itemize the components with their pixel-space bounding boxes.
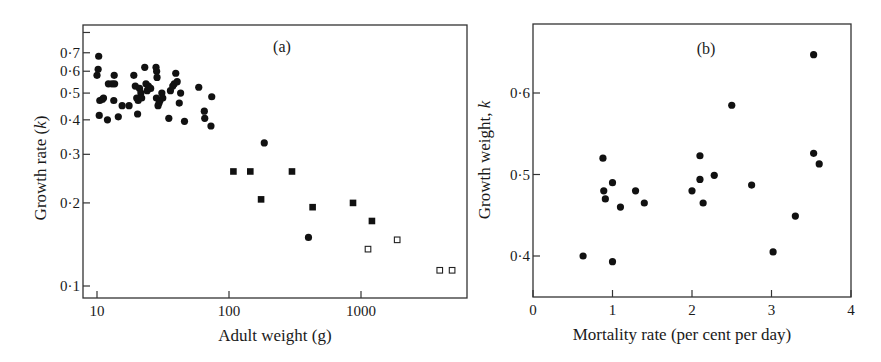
x-tick-label: 4 bbox=[847, 302, 855, 318]
data-point-circle bbox=[93, 72, 100, 79]
x-tick-label: 0 bbox=[529, 302, 537, 318]
data-point-open-square bbox=[449, 267, 455, 273]
data-point-circle bbox=[100, 94, 107, 101]
x-axis-title-b: Mortality rate (per cent per day) bbox=[573, 325, 792, 344]
y-tick-label: 0·1 bbox=[60, 278, 80, 294]
y-axis-title-b-text: Growth weight, bbox=[475, 108, 494, 219]
data-point-circle bbox=[141, 64, 148, 71]
data-point-circle bbox=[711, 172, 718, 179]
data-point-circle bbox=[201, 115, 208, 122]
data-point-circle bbox=[153, 74, 160, 81]
x-tick-label: 100 bbox=[218, 303, 241, 319]
data-point-circle bbox=[153, 68, 160, 75]
data-point-circle bbox=[111, 80, 118, 87]
y-tick-label: 0·4 bbox=[510, 248, 530, 264]
y-tick-label: 0·2 bbox=[60, 195, 80, 211]
data-point-circle bbox=[201, 108, 208, 115]
data-point-circle bbox=[696, 176, 703, 183]
data-point-circle bbox=[696, 152, 703, 159]
data-point-circle bbox=[632, 187, 639, 194]
data-point-circle bbox=[599, 155, 606, 162]
x-tick-label: 1000 bbox=[346, 303, 376, 319]
data-point-circle bbox=[177, 89, 184, 96]
data-point-square bbox=[289, 168, 296, 175]
data-point-circle bbox=[125, 102, 132, 109]
data-point-circle bbox=[609, 258, 616, 265]
x-tick-label: 1 bbox=[609, 302, 617, 318]
chart-panel-a: 101001000 0·10·20·30·40·50·60·7 (a) Adul… bbox=[31, 25, 467, 345]
data-point-circle bbox=[600, 187, 607, 194]
plot-frame-a bbox=[83, 25, 467, 298]
y-tick-label: 0·3 bbox=[60, 146, 80, 162]
data-point-circle bbox=[165, 115, 172, 122]
data-point-circle bbox=[176, 99, 183, 106]
y-tick-label: 0·6 bbox=[60, 63, 80, 79]
y-tick-label: 0·6 bbox=[510, 85, 530, 101]
data-point-circle bbox=[172, 70, 179, 77]
data-point-square bbox=[247, 168, 254, 175]
y-tick-label: 0·4 bbox=[60, 112, 80, 128]
data-point-circle bbox=[769, 248, 776, 255]
figure: 101001000 0·10·20·30·40·50·60·7 (a) Adul… bbox=[0, 0, 881, 362]
y-tick-label: 0·7 bbox=[60, 45, 80, 61]
data-point-circle bbox=[602, 195, 609, 202]
data-points-b bbox=[579, 51, 822, 265]
x-tick-label: 10 bbox=[90, 303, 105, 319]
y-axis-title-a: Growth rate (k) bbox=[31, 116, 50, 221]
data-point-circle bbox=[130, 72, 137, 79]
data-point-square bbox=[350, 200, 357, 207]
y-axis-b: 0·40·50·6 bbox=[510, 85, 540, 264]
data-point-circle bbox=[181, 118, 188, 125]
data-point-circle bbox=[579, 252, 586, 259]
data-point-circle bbox=[207, 122, 214, 129]
data-point-circle bbox=[261, 139, 268, 146]
y-axis-title-b: Growth weight, k bbox=[475, 100, 494, 219]
data-point-circle bbox=[810, 51, 817, 58]
x-tick-label: 3 bbox=[768, 302, 776, 318]
data-point-circle bbox=[609, 179, 616, 186]
data-point-circle bbox=[134, 110, 141, 117]
data-point-circle bbox=[641, 199, 648, 206]
data-point-circle bbox=[119, 102, 126, 109]
y-axis-a: 0·10·20·30·40·50·60·7 bbox=[60, 32, 90, 294]
data-point-circle bbox=[208, 93, 215, 100]
data-point-circle bbox=[147, 85, 154, 92]
data-point-open-square bbox=[437, 267, 443, 273]
data-point-circle bbox=[110, 97, 117, 104]
y-axis-title-a-text: Growth rate ( bbox=[31, 128, 50, 220]
data-point-circle bbox=[95, 53, 102, 60]
data-point-circle bbox=[748, 181, 755, 188]
y-axis-title-b-k: k bbox=[475, 100, 494, 108]
data-point-circle bbox=[688, 187, 695, 194]
x-axis-b: 01234 bbox=[529, 290, 855, 318]
data-point-circle bbox=[96, 112, 103, 119]
y-tick-label: 0·5 bbox=[60, 85, 80, 101]
data-point-square bbox=[369, 218, 376, 225]
data-point-square bbox=[230, 168, 237, 175]
data-point-circle bbox=[305, 234, 312, 241]
data-point-circle bbox=[104, 116, 111, 123]
data-point-circle bbox=[174, 78, 181, 85]
data-points-a bbox=[93, 53, 455, 273]
data-point-circle bbox=[617, 204, 624, 211]
data-point-circle bbox=[728, 102, 735, 109]
data-point-open-square bbox=[365, 246, 371, 252]
panel-label-a: (a) bbox=[273, 38, 291, 56]
data-point-circle bbox=[111, 72, 118, 79]
y-tick-label: 0·5 bbox=[510, 167, 530, 183]
data-point-circle bbox=[195, 84, 202, 91]
data-point-circle bbox=[95, 66, 102, 73]
x-axis-title-a: Adult weight (g) bbox=[218, 326, 331, 345]
data-point-circle bbox=[159, 94, 166, 101]
data-point-circle bbox=[138, 94, 145, 101]
data-point-square bbox=[258, 196, 265, 203]
data-point-open-square bbox=[394, 237, 400, 243]
data-point-circle bbox=[700, 199, 707, 206]
chart-panel-b: 01234 0·40·50·6 (b) Mortality rate (per … bbox=[475, 24, 855, 344]
data-point-square bbox=[309, 204, 316, 211]
data-point-circle bbox=[816, 160, 823, 167]
y-axis-title-a-close: ) bbox=[31, 116, 50, 122]
panel-label-b: (b) bbox=[697, 40, 716, 58]
x-tick-label: 2 bbox=[688, 302, 696, 318]
data-point-circle bbox=[792, 212, 799, 219]
